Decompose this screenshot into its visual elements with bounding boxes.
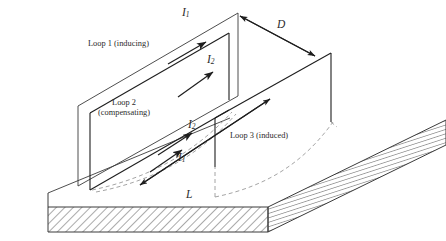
loop-3-label-text: Loop 3 (induced) bbox=[230, 131, 288, 140]
length-symbol: L bbox=[186, 188, 192, 200]
i2-top-arrow bbox=[178, 72, 213, 97]
current-subscript: 2 bbox=[192, 122, 196, 131]
distance-symbol: D bbox=[277, 18, 285, 30]
loop-coupling-diagram bbox=[0, 0, 446, 241]
loop-3-label: Loop 3 (induced) bbox=[230, 131, 288, 141]
current-i1-mid-label: I1 bbox=[178, 151, 186, 164]
loop-1-label-text: Loop 1 (inducing) bbox=[88, 39, 149, 48]
loop-2-label-text: Loop 2 bbox=[112, 98, 136, 107]
i1-top-arrow bbox=[168, 42, 206, 64]
loop-2-label: Loop 2 (compensating) bbox=[98, 98, 150, 117]
current-i2-mid-label: I2 bbox=[188, 118, 196, 131]
slab-front-face bbox=[48, 207, 268, 232]
current-i2-top-label: I2 bbox=[207, 53, 215, 66]
current-subscript: 1 bbox=[182, 155, 186, 164]
current-i1-top-label: I1 bbox=[182, 6, 190, 19]
distance-d-label: D bbox=[277, 18, 285, 30]
loop3-top-edge bbox=[215, 53, 331, 118]
current-subscript: 1 bbox=[186, 10, 190, 19]
loop-1-label: Loop 1 (inducing) bbox=[88, 39, 149, 49]
loop-2-label-subtext: (compensating) bbox=[98, 108, 150, 117]
current-subscript: 2 bbox=[211, 57, 215, 66]
length-l-label: L bbox=[186, 188, 192, 200]
